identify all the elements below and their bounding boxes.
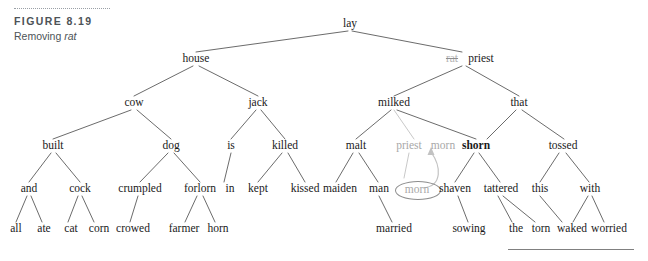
tree-node-shaven[interactable]: shaven	[439, 183, 471, 195]
tree-node-milked[interactable]: milked	[378, 97, 410, 109]
tree-node-ate[interactable]: ate	[37, 223, 50, 235]
tree-node-married[interactable]: married	[376, 223, 412, 235]
tree-node-lay[interactable]: lay	[343, 18, 357, 30]
tree-node-kept[interactable]: kept	[248, 183, 268, 195]
tree-node-tattered[interactable]: tattered	[484, 183, 518, 195]
tree-node-house[interactable]: house	[183, 53, 210, 65]
tree-node-tossed[interactable]: tossed	[549, 140, 578, 152]
tree-node-priest-grey[interactable]: priest	[396, 140, 422, 152]
tree-node-malt[interactable]: malt	[346, 140, 366, 152]
tree-node-kissed[interactable]: kissed	[291, 183, 320, 195]
tree-node-and[interactable]: and	[21, 183, 38, 195]
tree-node-sowing[interactable]: sowing	[452, 223, 485, 235]
tree-node-in[interactable]: in	[226, 183, 235, 195]
tree-node-torn[interactable]: torn	[532, 223, 551, 235]
tree-node-the[interactable]: the	[509, 223, 523, 235]
tree-node-man[interactable]: man	[369, 183, 389, 195]
tree-node-morn-circled[interactable]: morn	[405, 184, 429, 196]
tree-node-crowed[interactable]: crowed	[116, 223, 150, 235]
tree-node-jack[interactable]: jack	[248, 97, 267, 109]
tree-node-with[interactable]: with	[580, 183, 600, 195]
page-bottom-rule	[508, 249, 634, 250]
tree-node-worried[interactable]: worried	[591, 223, 627, 235]
tree-node-morn-grey[interactable]: morn	[431, 140, 455, 152]
tree-node-cat[interactable]: cat	[64, 223, 77, 235]
tree-node-this[interactable]: this	[532, 183, 549, 195]
tree-node-crumpled[interactable]: crumpled	[118, 183, 161, 195]
tree-node-priest-top[interactable]: priest	[468, 53, 494, 65]
tree-node-corn[interactable]: corn	[89, 223, 109, 235]
tree-node-horn[interactable]: horn	[207, 223, 228, 235]
tree-node-built[interactable]: built	[42, 140, 63, 152]
tree-node-farmer[interactable]: farmer	[169, 223, 200, 235]
tree-node-all[interactable]: all	[10, 223, 22, 235]
tree-node-cock[interactable]: cock	[69, 183, 91, 195]
tree-node-killed[interactable]: killed	[272, 140, 298, 152]
tree-node-that[interactable]: that	[510, 97, 527, 109]
tree-node-rat-removed[interactable]: rat	[446, 53, 458, 65]
tree-node-waked[interactable]: waked	[557, 223, 587, 235]
tree-node-is[interactable]: is	[227, 140, 235, 152]
tree-node-forlorn[interactable]: forlorn	[184, 183, 216, 195]
tree-node-shorn[interactable]: shorn	[462, 140, 490, 152]
tree-node-cow[interactable]: cow	[124, 97, 143, 109]
tree-node-dog[interactable]: dog	[162, 140, 179, 152]
tree-node-maiden[interactable]: maiden	[323, 183, 357, 195]
